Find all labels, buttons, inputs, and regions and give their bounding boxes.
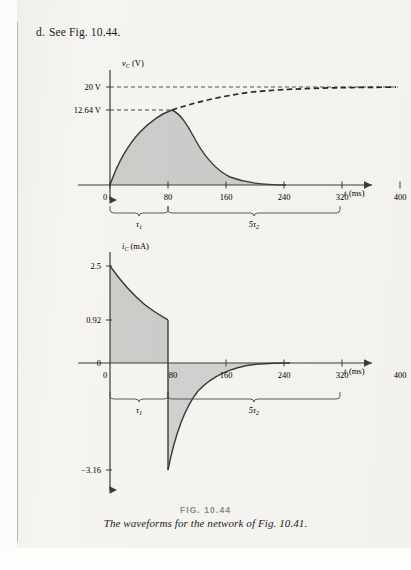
ic-xtick-label-240: 240 (278, 370, 291, 380)
figure-caption: FIG. 10.44 The waveforms for the network… (0, 505, 411, 529)
vc-xtick-label-400: 400 (394, 192, 407, 202)
figure-10-44: vC(V) t(ms) 20 V 12.64 V (0, 0, 411, 570)
vc-brace-label-5tau2: 5τ2 (249, 219, 259, 230)
ic-ylabel-2-5: 2.5 (90, 261, 101, 271)
vc-ylabel-20v: 20 V (84, 82, 101, 92)
ic-ylabel-neg-3-16: −3.16 (81, 465, 101, 475)
vc-y-axis-label: vC(V) (122, 58, 144, 69)
vc-brace-tau1 (110, 206, 168, 216)
ic-xtick-label-80: 80 (169, 370, 178, 380)
vc-brace-5tau2 (168, 206, 340, 216)
ic-brace-label-tau1: τ1 (136, 405, 142, 416)
vc-xtick-label-0: 0 (103, 192, 107, 202)
vc-brace-label-tau1: τ1 (136, 219, 142, 230)
ic-xtick-label-160: 160 (220, 370, 233, 380)
ic-xtick-label-0: 0 (103, 370, 107, 380)
ic-brace-label-5tau2: 5τ2 (249, 405, 259, 416)
page-background: d.See Fig. 10.44. (0, 0, 411, 570)
vc-xtick-label-160: 160 (220, 192, 233, 202)
vc-curve-dashed-charge (172, 87, 396, 110)
vc-shaded-area (110, 110, 286, 185)
vc-xtick-label-320: 320 (336, 192, 349, 202)
vc-ylabel-12-64v: 12.64 V (74, 105, 102, 115)
ic-ylabel-0-92: 0.92 (86, 315, 101, 325)
figure-number: FIG. 10.44 (0, 505, 411, 515)
ic-xtick-label-400: 400 (394, 370, 407, 380)
vc-xtick-label-80: 80 (164, 192, 173, 202)
ic-y-axis-label: iC(mA) (122, 241, 149, 252)
ic-ylabel-0: 0 (97, 358, 101, 368)
vc-chart: vC(V) t(ms) 20 V 12.64 V (74, 58, 407, 230)
ic-xtick-label-320: 320 (336, 370, 349, 380)
ic-brace-tau1 (110, 392, 168, 402)
ic-chart: iC(mA) t(ms) 2.5 0.92 0 −3.16 (78, 241, 406, 490)
figure-title: The waveforms for the network of Fig. 10… (0, 517, 411, 529)
waveform-diagram: vC(V) t(ms) 20 V 12.64 V (0, 0, 411, 505)
vc-xtick-label-240: 240 (278, 192, 291, 202)
